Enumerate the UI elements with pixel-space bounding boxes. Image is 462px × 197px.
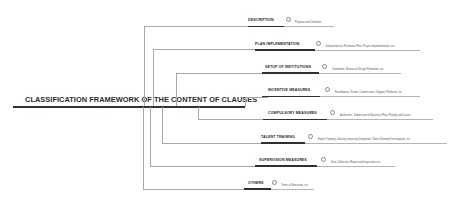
connector-supervision-vertical	[150, 107, 151, 167]
branch-underline	[244, 188, 271, 190]
connector-supervision-horizontal	[150, 166, 259, 167]
circle-icon	[321, 157, 326, 162]
circle-icon	[330, 110, 335, 115]
branch-underline	[262, 96, 320, 98]
circle-icon	[316, 41, 321, 46]
branch-label: COMPULSORY MEASURES	[268, 111, 317, 115]
connector-setup-vertical	[176, 73, 177, 106]
branch-detail: Foundations, Funds, Commissions, Support…	[335, 91, 403, 94]
detail-underline	[271, 189, 314, 190]
connector-incentive-horizontal	[245, 97, 268, 98]
connector-talent-horizontal	[162, 143, 261, 144]
connector-plan-vertical	[153, 49, 154, 106]
detail-underline	[327, 119, 433, 120]
root-title: CLASSIFICATION FRAMEWORK OF THE CONTENT …	[25, 95, 257, 104]
detail-underline	[317, 166, 395, 167]
detail-underline	[320, 96, 420, 97]
connector-plan-horizontal	[153, 49, 255, 50]
circle-icon	[286, 17, 291, 22]
branch-detail: Authorities, Submission of Business Plan…	[340, 114, 411, 117]
branch-label: SETUP OF INSTITUTIONS	[265, 65, 311, 69]
connector-incentive-vertical	[245, 97, 246, 107]
branch-label: PLAN IMPLEMENTATION	[255, 42, 300, 46]
branch-label: INCENTIVE MEASURES	[268, 88, 310, 92]
branch-detail: Committee, Bureau of Design Promotion, e…	[332, 68, 384, 71]
circle-icon	[322, 64, 327, 69]
detail-underline	[305, 143, 447, 144]
connector-compulsory-horizontal	[198, 119, 268, 120]
circle-icon	[272, 180, 277, 185]
branch-underline	[261, 142, 305, 144]
connector-description-horizontal	[144, 26, 248, 27]
circle-icon	[325, 87, 330, 92]
branch-underline	[255, 49, 315, 51]
detail-underline	[284, 26, 334, 27]
connector-setup-horizontal	[176, 73, 265, 74]
branch-detail: Expert Training, Industry-university Int…	[318, 138, 411, 141]
detail-underline	[315, 50, 420, 51]
branch-label: DESCRIPTION	[248, 18, 274, 22]
branch-underline	[263, 119, 327, 121]
branch-label: TALENT TRAINING	[261, 135, 295, 139]
branch-underline	[248, 26, 284, 28]
branch-label: OTHERS	[248, 181, 264, 185]
connector-others-vertical	[143, 107, 144, 190]
branch-label: SUPERVISION MEASURES	[259, 158, 307, 162]
detail-underline	[319, 73, 401, 74]
connector-talent-vertical	[162, 107, 163, 144]
root-underline	[13, 106, 245, 108]
connector-others-horizontal	[143, 189, 248, 190]
branch-detail: Comprehensive Promotion Plan, Project Im…	[325, 45, 395, 48]
classification-framework-diagram: CLASSIFICATION FRAMEWORK OF THE CONTENT …	[0, 0, 462, 197]
circle-icon	[308, 134, 313, 139]
branch-detail: Terms of Execution, etc.	[281, 184, 309, 187]
branch-underline	[262, 72, 319, 74]
branch-detail: Data Collection, Report and Inspection, …	[331, 161, 381, 164]
connector-description-vertical	[144, 26, 145, 106]
branch-underline	[255, 165, 317, 167]
branch-detail: Purpose and Definition	[295, 21, 321, 24]
